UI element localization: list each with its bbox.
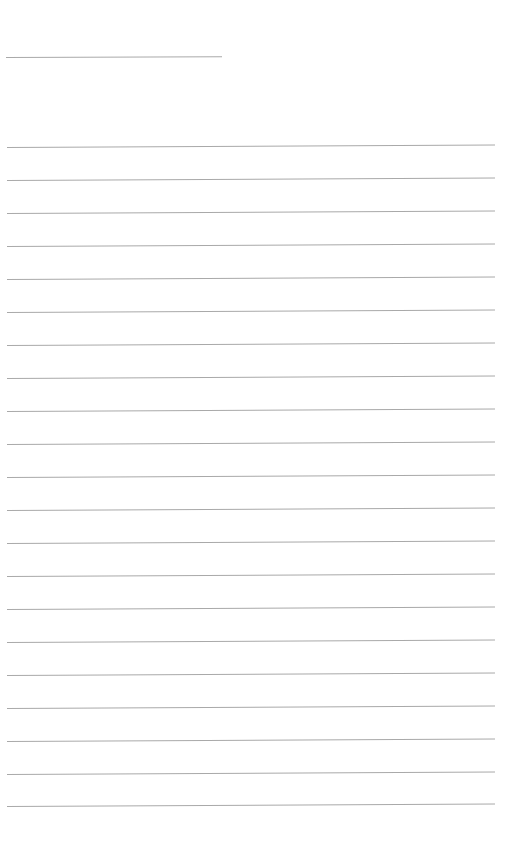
ruled-line [7,705,495,709]
ruled-line [7,803,495,807]
ruled-line [7,771,495,775]
ruled-line [7,639,495,643]
ruled-line [7,540,495,544]
header-rule [6,56,222,58]
ruled-line [7,672,495,676]
ruled-line [7,144,495,148]
ruled-line [7,738,495,742]
ruled-line [7,309,495,313]
ruled-line [7,276,495,280]
ruled-line [7,375,495,379]
ruled-line [7,177,495,181]
ruled-line [7,342,495,346]
ruled-line [7,606,495,610]
ruled-line [7,210,495,214]
ruled-line [7,408,495,412]
ruled-line [7,243,495,247]
lined-paper-page [0,0,529,841]
ruled-line [7,441,495,445]
ruled-line [7,573,495,577]
ruled-line [7,507,495,511]
ruled-line [7,474,495,478]
